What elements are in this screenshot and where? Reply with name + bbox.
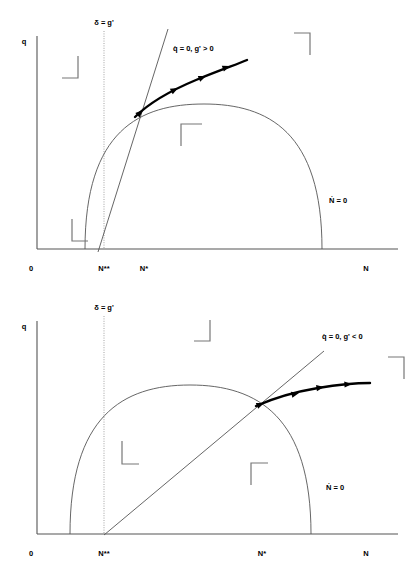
saddle-path-top bbox=[135, 60, 247, 117]
bracket-center-top bbox=[181, 124, 202, 146]
n-dot-nullcline-label-top: Ṅ = 0 bbox=[329, 196, 347, 205]
phase-diagram-bottom-panel: δ = g' q q̇ = 0, g' < 0 Ṅ = 0 0 N** N* … bbox=[0, 285, 417, 570]
n-dot-nullcline-bottom bbox=[70, 385, 311, 534]
saddle-path-bottom bbox=[256, 383, 370, 406]
bracket-upper-center-bottom bbox=[194, 320, 210, 341]
n-dot-nullcline-top bbox=[85, 104, 322, 249]
q-dot-locus-label-bottom: q̇ = 0, g' < 0 bbox=[322, 332, 363, 341]
delta-equals-g-prime-label-top: δ = g' bbox=[94, 18, 114, 27]
origin-label-top: 0 bbox=[29, 264, 33, 273]
x-axis-label-bottom: N bbox=[363, 549, 368, 558]
q-dot-locus-line-top bbox=[98, 29, 168, 252]
q-dot-locus-label-top: q̇ = 0, g' > 0 bbox=[173, 44, 214, 53]
origin-label-bottom: 0 bbox=[29, 549, 33, 558]
n-dot-nullcline-label-bottom: Ṅ = 0 bbox=[326, 483, 344, 492]
q-dot-locus-line-bottom bbox=[104, 351, 324, 535]
xtick-label-n-double-star-top: N** bbox=[98, 264, 109, 273]
xtick-label-n-double-star-bottom: N** bbox=[98, 549, 109, 558]
bracket-upper-right-bottom bbox=[388, 357, 404, 379]
bracket-lower-left-bottom bbox=[122, 441, 139, 464]
y-axis-label-bottom: q bbox=[22, 322, 27, 331]
bracket-upper-right-top bbox=[294, 33, 310, 55]
bracket-lower-center-bottom bbox=[251, 463, 268, 485]
xtick-label-n-star-bottom: N* bbox=[258, 549, 266, 558]
xtick-label-n-star-top: N* bbox=[140, 264, 148, 273]
x-axis-label-top: N bbox=[363, 264, 368, 273]
delta-equals-g-prime-label-bottom: δ = g' bbox=[94, 303, 114, 312]
phase-diagram-top-panel: δ = g' q q̇ = 0, g' > 0 Ṅ = 0 0 N** N* … bbox=[0, 0, 417, 285]
bracket-upper-left-top bbox=[62, 56, 78, 78]
y-axis-label-top: q bbox=[22, 37, 27, 46]
